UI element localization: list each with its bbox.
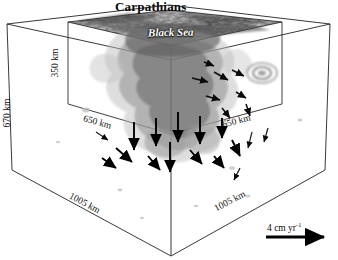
axis-label-inner-depth: 350 km — [50, 49, 60, 78]
ring-anomaly — [247, 63, 277, 83]
page-title: Carpathians — [115, 0, 187, 15]
figure-panel: Carpathians Black Sea 670 km 350 km 650 … — [0, 0, 338, 260]
scale-bar-value: 4 cm yr — [267, 223, 296, 233]
axis-label-outer-depth: 670 km — [2, 99, 12, 128]
black-sea-label: Black Sea — [148, 26, 194, 39]
scale-bar-exponent: -1 — [296, 221, 301, 228]
scale-bar-label: 4 cm yr-1 — [267, 221, 301, 233]
slab-isosurface — [90, 24, 252, 163]
